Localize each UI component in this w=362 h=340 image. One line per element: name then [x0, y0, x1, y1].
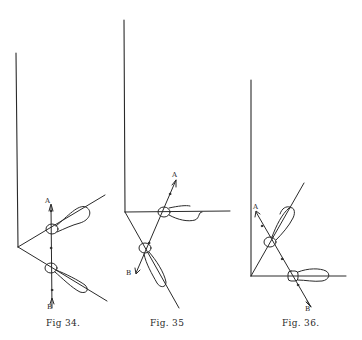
fig-34-label-a: A: [45, 197, 50, 205]
fig-36-label-b: B: [305, 305, 310, 313]
figure-page: A B A B A B Fig 34. Fig. 35 Fig. 36.: [0, 0, 362, 340]
fig-34-label-b: B: [47, 303, 52, 311]
fig-34-drawing: [16, 53, 107, 308]
fig-35-label-b: B: [126, 269, 131, 277]
fig-36-drawing: [251, 80, 346, 307]
fig-34-caption: Fig 34.: [46, 318, 80, 328]
diagram-canvas: [0, 0, 362, 340]
fig-35-drawing: [124, 20, 230, 308]
fig-35-label-a: A: [172, 171, 177, 179]
fig-36-caption: Fig. 36.: [282, 318, 319, 328]
fig-36-label-a: A: [253, 203, 258, 211]
fig-35-caption: Fig. 35: [150, 318, 184, 328]
